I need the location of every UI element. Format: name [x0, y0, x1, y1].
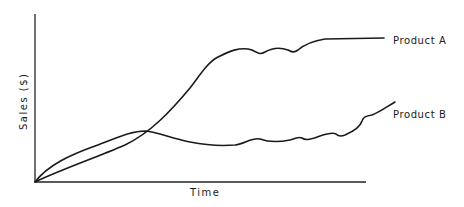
series-product-b-line: [35, 102, 395, 182]
series-product-a-line: [35, 38, 384, 182]
series-label-product-a: Product A: [393, 35, 446, 46]
line-chart: Product A Product B Time Sales ($): [0, 0, 464, 207]
y-axis-label: Sales ($): [18, 73, 29, 130]
x-axis-label: Time: [189, 187, 220, 198]
series-label-product-b: Product B: [393, 109, 446, 120]
